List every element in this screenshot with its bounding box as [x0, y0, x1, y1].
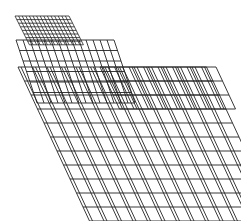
- sheared-grid-diagram: [0, 0, 241, 221]
- large-grid: [18, 67, 241, 221]
- top-dense-grid: [15, 16, 83, 45]
- diagram-canvas: [0, 0, 241, 221]
